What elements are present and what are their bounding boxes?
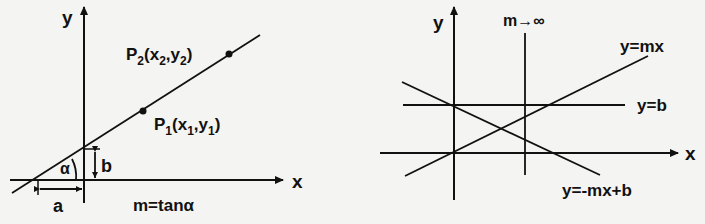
right-panel: y x m→∞ y=mx y=b y=-mx+b	[380, 7, 696, 200]
angle-alpha-label: α	[60, 160, 70, 177]
y-axis-label: y	[433, 12, 444, 33]
intercept-a-label: a	[53, 196, 64, 216]
line-y-neg-mx-plus-b-label: y=-mx+b	[562, 181, 632, 200]
y-axis-label: y	[62, 7, 73, 28]
left-panel: y x P2(x2,y2) P1(x1,y1) α b a m=tanα	[10, 7, 303, 216]
line-y-b-label: y=b	[637, 96, 667, 115]
x-axis-label: x	[292, 171, 303, 192]
point-p2-label: P2(x2,y2)	[126, 45, 192, 68]
line-equations-diagram: y x P2(x2,y2) P1(x1,y1) α b a m=tanα y x…	[0, 0, 705, 224]
point-p1-label: P1(x1,y1)	[154, 115, 220, 138]
line-y-mx	[405, 56, 648, 176]
line-y-mx-label: y=mx	[620, 37, 664, 56]
intercept-b-label: b	[101, 156, 112, 176]
point-p2	[226, 51, 233, 58]
x-axis-label: x	[685, 143, 696, 164]
point-p1	[140, 108, 147, 115]
slope-formula: m=tanα	[133, 196, 195, 215]
line-y-neg-mx-plus-b	[402, 82, 600, 175]
infinite-slope-label: m→∞	[503, 12, 545, 29]
angle-arc	[72, 159, 76, 180]
